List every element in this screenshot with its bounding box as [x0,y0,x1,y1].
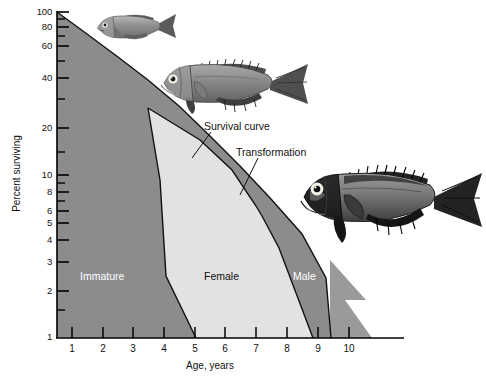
x-tick-label-6: 6 [211,343,239,354]
region-label-immature: Immature [80,270,124,282]
y-tick-label-40: 40 [10,73,52,83]
y-tick-label-100: 100 [10,7,52,17]
fish-female-illustration [158,48,312,120]
x-axis-title: Age, years [150,360,270,371]
x-tick-label-2: 2 [89,343,117,354]
y-tick-label-1: 1 [10,332,52,342]
x-tick-label-4: 4 [150,343,178,354]
fish-male-illustration [298,155,486,247]
x-tick-label-10: 10 [335,343,363,354]
y-tick-label-80: 80 [10,22,52,32]
y-tick-label-3: 3 [10,257,52,267]
y-tick-label-60: 60 [10,41,52,51]
x-tick-label-1: 1 [58,343,86,354]
x-tick-label-8: 8 [273,343,301,354]
y-tick-label-4: 4 [10,235,52,245]
y-tick-label-2: 2 [10,286,52,296]
x-tick-label-5: 5 [181,343,209,354]
y-axis-title: Percent surviving [11,114,22,234]
region-fill-tail-wedge [330,260,372,338]
region-label-female: Female [204,270,239,282]
x-tick-label-3: 3 [119,343,147,354]
figure-container: 100 80 60 40 20 10 8 6 5 4 3 2 1 1 2 3 4… [0,0,486,376]
x-tick-label-7: 7 [242,343,270,354]
fish-immature-illustration [94,6,180,48]
x-tick-label-9: 9 [304,343,332,354]
region-label-male: Male [293,270,316,282]
annotation-transformation: Transformation [236,146,306,158]
annotation-survival-curve: Survival curve [204,120,270,132]
